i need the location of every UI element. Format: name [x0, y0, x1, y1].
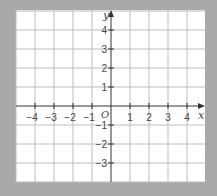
- x-tick-label: 3: [165, 112, 171, 123]
- x-tick-label: 2: [146, 112, 152, 123]
- x-tick-label: −1: [83, 112, 95, 123]
- x-tick-label: 1: [127, 112, 133, 123]
- y-tick-label: 4: [101, 25, 107, 36]
- origin-label: O: [101, 109, 109, 120]
- x-tick-label: −2: [64, 112, 76, 123]
- x-axis-label: x: [198, 109, 205, 122]
- x-tick-label: −4: [26, 112, 38, 123]
- y-tick-label: 2: [101, 63, 107, 74]
- y-tick-label: −2: [96, 139, 108, 150]
- y-axis-label: y: [102, 9, 110, 22]
- y-tick-label: 3: [101, 44, 107, 55]
- y-tick-label: −3: [96, 158, 108, 169]
- y-tick-label: −1: [96, 120, 108, 131]
- x-tick-label: −3: [45, 112, 57, 123]
- x-tick-label: 4: [184, 112, 190, 123]
- y-tick-label: 1: [101, 82, 107, 93]
- coordinate-grid: −4−3−2−112344321−1−2−3 y x O: [0, 0, 217, 196]
